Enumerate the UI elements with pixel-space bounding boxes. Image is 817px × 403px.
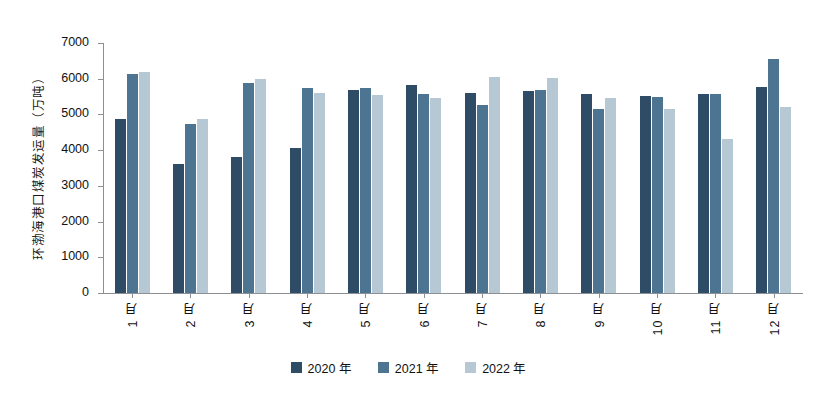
- bar-group: 4 月: [278, 43, 336, 293]
- bar-2022年-6月: [430, 98, 441, 293]
- bar-groups: 1 月2 月3 月4 月5 月6 月7 月8 月9 月10 月11 月12 月: [103, 43, 803, 293]
- x-tick-label: 6 月: [414, 301, 433, 327]
- x-tick-label: 10 月: [648, 301, 667, 335]
- y-tick-label: 2000: [29, 214, 89, 228]
- bar-group: 7 月: [453, 43, 511, 293]
- bar-2021年-8月: [535, 90, 546, 293]
- bar-2020年-10月: [640, 96, 651, 293]
- x-tick-mark: [307, 293, 308, 298]
- bar-2021年-11月: [710, 94, 721, 293]
- plot-area: 01000200030004000500060007000 1 月2 月3 月4…: [103, 43, 803, 293]
- x-tick-mark: [132, 293, 133, 298]
- bar-2020年-1月: [115, 119, 126, 293]
- bar-2021年-5月: [360, 88, 371, 293]
- y-tick-label: 7000: [29, 35, 89, 49]
- legend-label: 2022 年: [482, 358, 526, 377]
- x-tick-mark: [599, 293, 600, 298]
- legend-item-2021年[interactable]: 2021 年: [378, 358, 439, 377]
- bar-2022年-2月: [197, 119, 208, 293]
- bar-group: 8 月: [511, 43, 569, 293]
- bar-2022年-11月: [722, 139, 733, 293]
- bar-2020年-12月: [756, 87, 767, 293]
- bar-2022年-8月: [547, 78, 558, 293]
- x-tick-mark: [190, 293, 191, 298]
- bar-2021年-3月: [243, 83, 254, 293]
- x-tick-mark: [774, 293, 775, 298]
- x-tick-label: 12 月: [764, 301, 783, 335]
- x-tick-mark: [424, 293, 425, 298]
- bar-2022年-10月: [664, 109, 675, 293]
- y-tick-label: 6000: [29, 71, 89, 85]
- bar-group: 12 月: [745, 43, 803, 293]
- bar-2021年-12月: [768, 59, 779, 293]
- x-tick-mark: [365, 293, 366, 298]
- x-tick-label: 7 月: [473, 301, 492, 327]
- x-tick-label: 2 月: [181, 301, 200, 327]
- x-axis-line: [103, 293, 803, 294]
- bar-2020年-3月: [231, 157, 242, 293]
- y-tick-mark: [98, 293, 103, 294]
- bar-group: 9 月: [570, 43, 628, 293]
- bar-2021年-4月: [302, 88, 313, 293]
- legend-label: 2021 年: [395, 358, 439, 377]
- y-tick-label: 4000: [29, 142, 89, 156]
- legend-label: 2020 年: [308, 358, 352, 377]
- bar-2022年-7月: [489, 77, 500, 293]
- bar-group: 3 月: [220, 43, 278, 293]
- bar-2020年-5月: [348, 90, 359, 293]
- bar-2020年-7月: [465, 93, 476, 293]
- bar-group: 11 月: [686, 43, 744, 293]
- bar-2022年-5月: [372, 95, 383, 293]
- bar-2021年-2月: [185, 124, 196, 293]
- bar-2022年-4月: [314, 93, 325, 293]
- bar-group: 1 月: [103, 43, 161, 293]
- bar-2020年-8月: [523, 91, 534, 293]
- bar-chart: 环渤海港口煤炭发运量（万吨） 0100020003000400050006000…: [0, 0, 817, 403]
- bar-2021年-6月: [418, 94, 429, 293]
- bar-2022年-1月: [139, 72, 150, 293]
- x-tick-mark: [249, 293, 250, 298]
- chart-legend: 2020 年2021 年2022 年: [0, 358, 817, 377]
- bar-2020年-9月: [581, 94, 592, 293]
- x-tick-mark: [540, 293, 541, 298]
- x-tick-label: 4 月: [298, 301, 317, 327]
- x-tick-label: 5 月: [356, 301, 375, 327]
- x-tick-label: 3 月: [239, 301, 258, 327]
- bar-group: 5 月: [336, 43, 394, 293]
- y-tick-label: 3000: [29, 178, 89, 192]
- bar-2022年-12月: [780, 107, 791, 293]
- legend-swatch-icon: [465, 362, 476, 373]
- bar-group: 10 月: [628, 43, 686, 293]
- bar-2021年-10月: [652, 97, 663, 293]
- legend-swatch-icon: [291, 362, 302, 373]
- legend-swatch-icon: [378, 362, 389, 373]
- bar-2020年-4月: [290, 148, 301, 293]
- bar-2020年-11月: [698, 94, 709, 293]
- legend-item-2022年[interactable]: 2022 年: [465, 358, 526, 377]
- x-tick-label: 1 月: [123, 301, 142, 327]
- bar-group: 2 月: [161, 43, 219, 293]
- x-tick-label: 9 月: [589, 301, 608, 327]
- x-tick-mark: [715, 293, 716, 298]
- bar-group: 6 月: [395, 43, 453, 293]
- bar-2021年-9月: [593, 109, 604, 293]
- bar-2020年-6月: [406, 85, 417, 293]
- x-tick-label: 11 月: [706, 301, 725, 334]
- y-tick-label: 1000: [29, 249, 89, 263]
- x-tick-mark: [482, 293, 483, 298]
- x-tick-mark: [657, 293, 658, 298]
- legend-item-2020年[interactable]: 2020 年: [291, 358, 352, 377]
- bar-2021年-7月: [477, 105, 488, 293]
- x-tick-label: 8 月: [531, 301, 550, 327]
- bar-2021年-1月: [127, 74, 138, 293]
- bar-2020年-2月: [173, 164, 184, 293]
- y-tick-label: 0: [29, 285, 89, 299]
- y-tick-label: 5000: [29, 106, 89, 120]
- bar-2022年-3月: [255, 79, 266, 293]
- bar-2022年-9月: [605, 98, 616, 293]
